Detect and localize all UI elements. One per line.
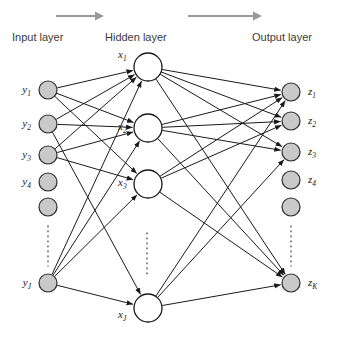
node-label-z1: z1	[307, 85, 316, 100]
connection-edge-x1-to-z1	[162, 69, 280, 90]
edges-group	[52, 69, 285, 305]
layer-headers-group: Input layerHidden layerOutput layer	[12, 31, 312, 43]
node-label-yJ: yJ	[22, 276, 32, 291]
node-output-z3[interactable]	[282, 143, 300, 161]
node-hidden-x1[interactable]	[134, 53, 162, 81]
connection-edge-xJ-to-z3	[158, 160, 284, 298]
node-output-z4[interactable]	[282, 171, 300, 189]
node-label-zK: zK	[307, 276, 318, 291]
neural-network-figure: y1y2y3y4yJx1x2x3xJz1z2z3z4zK Input layer…	[0, 0, 338, 342]
connection-edge-x2-to-zK	[158, 139, 284, 276]
connection-edge-xJ-to-zK	[162, 285, 280, 306]
output-layer-header: Output layer	[252, 31, 312, 43]
connection-edge-yJ-to-x2	[53, 141, 139, 275]
network-canvas: y1y2y3y4yJx1x2x3xJz1z2z3z4zK Input layer…	[0, 0, 338, 342]
node-input-y1[interactable]	[39, 81, 57, 99]
node-label-x1: x1	[117, 48, 127, 63]
hidden-layer-header: Hidden layer	[105, 31, 167, 43]
node-label-z4: z4	[307, 173, 316, 188]
node-hidden-x3[interactable]	[134, 170, 162, 198]
connection-edge-x2-to-z2	[162, 122, 280, 128]
node-label-xJ: xJ	[117, 308, 127, 323]
node-label-x3: x3	[117, 176, 127, 191]
ellipsis-group	[48, 226, 291, 277]
input-layer-header: Input layer	[12, 31, 64, 43]
connection-edge-x3-to-zK	[160, 192, 282, 277]
node-input-y4[interactable]	[39, 173, 57, 191]
node-output-z2[interactable]	[282, 112, 300, 130]
node-hidden-x2[interactable]	[134, 114, 162, 142]
node-label-y2: y2	[21, 117, 31, 132]
connection-edge-xJ-to-z1	[156, 101, 285, 296]
connection-edge-y1-to-x2	[57, 93, 134, 122]
node-label-x2: x2	[117, 120, 127, 135]
node-input-yJ[interactable]	[39, 274, 57, 292]
connection-edge-y1-to-x1	[57, 70, 133, 87]
connection-edge-yJ-to-xJ	[57, 285, 133, 304]
node-output-zK[interactable]	[282, 274, 300, 292]
node-label-y1: y1	[21, 83, 31, 98]
node-output-z1[interactable]	[282, 83, 300, 101]
node-output-z5[interactable]	[282, 198, 300, 216]
node-label-z3: z3	[307, 145, 316, 160]
node-input-y2[interactable]	[39, 115, 57, 133]
connection-edge-y2-to-x1	[56, 75, 134, 120]
node-hidden-xJ[interactable]	[134, 294, 162, 322]
node-label-z2: z2	[307, 114, 316, 129]
connection-edge-y2-to-xJ	[53, 132, 141, 294]
input-to-hidden-flow-arrow-head	[95, 12, 104, 21]
node-label-y3: y3	[21, 148, 31, 163]
node-label-y4: y4	[21, 175, 31, 190]
connection-edge-y3-to-x2	[57, 132, 133, 152]
flow-arrows-group	[56, 12, 262, 21]
hidden-to-output-flow-arrow-head	[253, 12, 262, 21]
node-input-y3[interactable]	[39, 146, 57, 164]
node-input-y5[interactable]	[39, 198, 57, 216]
